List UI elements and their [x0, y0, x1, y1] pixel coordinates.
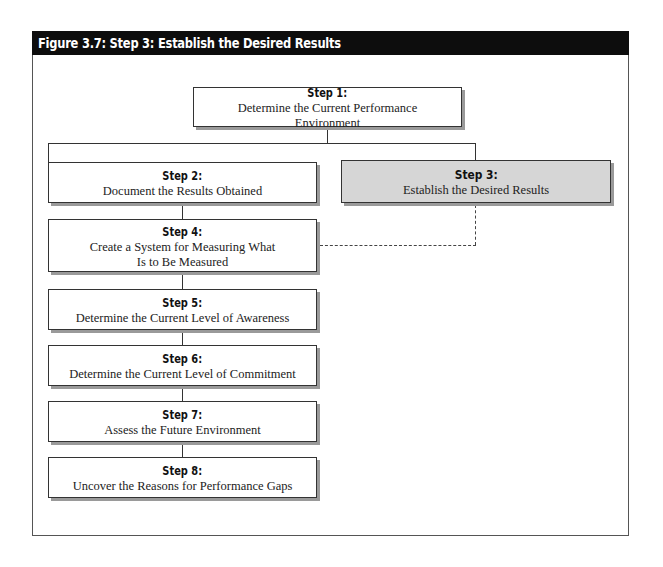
connector-step2-step4 [182, 203, 183, 219]
connector-step5-step6 [182, 330, 183, 345]
figure-title: Figure 3.7: Step 3: Establish the Desire… [38, 31, 341, 55]
step3-label: Step 3: [454, 168, 497, 182]
step1-box: Step 1: Determine the Current Performanc… [193, 87, 462, 127]
step2-label: Step 2: [163, 169, 203, 183]
step3-desc: Establish the Desired Results [342, 183, 610, 198]
connector-horizontal-branch [48, 143, 476, 144]
step8-label: Step 8: [163, 464, 203, 478]
dashed-connector-step3-down [475, 205, 476, 245]
step6-box: Step 6: Determine the Current Level of C… [48, 345, 317, 386]
dashed-connector-to-step4 [320, 245, 476, 246]
step8-desc: Uncover the Reasons for Performance Gaps [49, 479, 316, 494]
step5-desc: Determine the Current Level of Awareness [49, 311, 316, 326]
step2-box: Step 2: Document the Results Obtained [48, 162, 317, 203]
step3-box-highlighted: Step 3: Establish the Desired Results [341, 160, 611, 203]
step6-desc: Determine the Current Level of Commitmen… [49, 367, 316, 382]
connector-step4-step5 [182, 272, 183, 289]
step6-label: Step 6: [163, 352, 203, 366]
step4-label: Step 4: [163, 225, 203, 239]
connector-step6-step7 [182, 386, 183, 401]
step1-desc: Determine the Current Performance Enviro… [194, 101, 461, 131]
step7-box: Step 7: Assess the Future Environment [48, 401, 317, 442]
step5-label: Step 5: [163, 296, 203, 310]
connector-to-step3 [475, 143, 476, 160]
step2-desc: Document the Results Obtained [49, 184, 316, 199]
step7-label: Step 7: [163, 408, 203, 422]
step4-box: Step 4: Create a System for Measuring Wh… [48, 219, 317, 272]
figure-title-bar: Figure 3.7: Step 3: Establish the Desire… [32, 31, 629, 55]
step1-label: Step 1: [308, 86, 348, 100]
step7-desc: Assess the Future Environment [49, 423, 316, 438]
connector-to-step2 [48, 143, 49, 162]
connector-step7-step8 [182, 442, 183, 457]
step8-box: Step 8: Uncover the Reasons for Performa… [48, 457, 317, 498]
step5-box: Step 5: Determine the Current Level of A… [48, 289, 317, 330]
step4-desc: Create a System for Measuring What Is to… [49, 240, 316, 270]
